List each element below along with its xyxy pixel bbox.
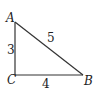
side-ab: [15, 22, 83, 75]
side-label-ac: 3: [7, 43, 15, 57]
triangle-diagram: A C B 3 4 5: [0, 0, 96, 92]
vertex-label-b: B: [83, 74, 93, 88]
side-label-cb: 4: [42, 77, 50, 91]
side-label-ab: 5: [47, 31, 55, 45]
vertex-label-c: C: [7, 73, 16, 87]
vertex-label-a: A: [5, 11, 15, 25]
